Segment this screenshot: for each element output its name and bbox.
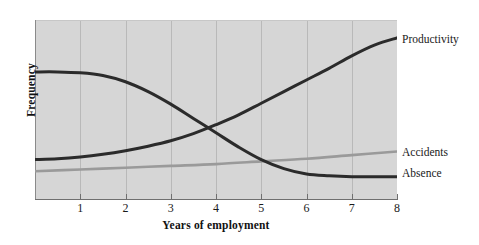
tickmark-7 bbox=[352, 194, 353, 200]
tickmark-4 bbox=[216, 194, 217, 200]
tickmark-8 bbox=[397, 194, 398, 200]
series-label-accidents: Accidents bbox=[402, 146, 448, 158]
series-label-productivity: Productivity bbox=[402, 33, 459, 45]
x-tick-label-2: 2 bbox=[114, 201, 138, 216]
series-line-productivity bbox=[35, 38, 397, 160]
x-tick-label-8: 8 bbox=[385, 201, 409, 216]
x-tick-label-6: 6 bbox=[295, 201, 319, 216]
x-tick-label-7: 7 bbox=[340, 201, 364, 216]
x-axis-title: Years of employment bbox=[35, 219, 397, 231]
tickmark-2 bbox=[126, 194, 127, 200]
series-label-absence: Absence bbox=[402, 167, 442, 179]
x-tick-label-4: 4 bbox=[204, 201, 228, 216]
tickmark-1 bbox=[80, 194, 81, 200]
series-curves bbox=[35, 20, 397, 199]
x-tick-label-5: 5 bbox=[249, 201, 273, 216]
x-tick-label-3: 3 bbox=[159, 201, 183, 216]
tickmark-6 bbox=[307, 194, 308, 200]
y-axis-title: Frequency bbox=[25, 45, 37, 135]
tickmark-5 bbox=[261, 194, 262, 200]
chart-figure: 12345678 Frequency Years of employment P… bbox=[0, 0, 479, 245]
tickmark-3 bbox=[171, 194, 172, 200]
x-tick-label-1: 1 bbox=[68, 201, 92, 216]
